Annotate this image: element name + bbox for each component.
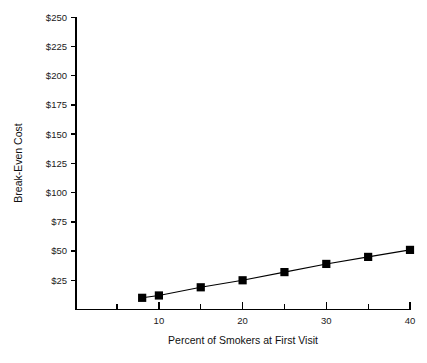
x-tick-label-10: 10	[154, 315, 165, 326]
x-axis-ticks	[75, 302, 410, 310]
data-point-15-19	[197, 283, 205, 291]
y-axis-title: Break-Even Cost	[12, 123, 24, 202]
x-tick-label-20: 20	[237, 315, 248, 326]
data-point-8-10	[138, 294, 146, 302]
data-point-20-25	[239, 276, 247, 284]
y-tick-label-25: $25	[51, 275, 67, 286]
axes	[75, 17, 410, 310]
y-tick-label-50: $50	[51, 245, 67, 256]
data-point-10-12	[155, 291, 163, 299]
y-tick-label-75: $75	[51, 216, 67, 227]
data-series-break-even-cost	[138, 246, 414, 302]
data-point-25-32	[280, 268, 288, 276]
y-axis-ticks	[71, 17, 77, 280]
x-axis-title: Percent of Smokers at First Visit	[168, 334, 318, 346]
y-tick-label-225: $225	[46, 41, 67, 52]
y-tick-label-150: $150	[46, 129, 67, 140]
data-point-40-51	[406, 246, 414, 254]
x-axis-tick-labels: 10203040	[154, 315, 416, 326]
y-tick-label-100: $100	[46, 187, 67, 198]
x-tick-label-30: 30	[321, 315, 332, 326]
chart-figure: $25$50$75$100$125$150$175$200$225$250 10…	[0, 0, 427, 363]
y-axis-tick-labels: $25$50$75$100$125$150$175$200$225$250	[46, 12, 67, 286]
break-even-cost-line-chart: $25$50$75$100$125$150$175$200$225$250 10…	[0, 0, 427, 363]
data-point-35-45	[364, 253, 372, 261]
y-tick-label-125: $125	[46, 158, 67, 169]
y-tick-label-250: $250	[46, 12, 67, 23]
y-tick-label-200: $200	[46, 70, 67, 81]
y-tick-label-175: $175	[46, 99, 67, 110]
x-tick-label-40: 40	[405, 315, 416, 326]
data-point-30-39	[322, 260, 330, 268]
